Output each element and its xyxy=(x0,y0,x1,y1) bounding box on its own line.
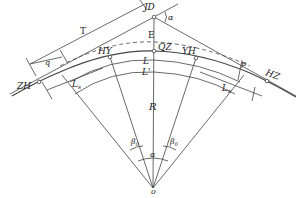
label-t: T xyxy=(80,26,86,36)
radial-line-yh xyxy=(153,58,196,188)
label-e: E xyxy=(148,30,155,40)
label-beta-right: β0 xyxy=(169,137,179,147)
label-alpha-top: α xyxy=(168,13,174,22)
label-ls-right: Ls xyxy=(221,83,231,94)
label-alpha-bottom: α xyxy=(150,150,156,159)
alpha-top-arc xyxy=(165,12,167,22)
point-hz xyxy=(265,79,269,83)
label-r: R xyxy=(148,101,157,112)
label-zh: ZH xyxy=(16,81,31,91)
point-qz xyxy=(152,49,156,53)
label-yh: YH xyxy=(182,46,196,56)
label-qz: QZ xyxy=(158,42,172,52)
label-hy: HY xyxy=(97,46,113,56)
label-ls-left: Ls xyxy=(71,79,81,90)
label-p: p xyxy=(241,59,246,68)
curve-diagram: ZH HY QZ YH HZ JD o α T q E L L' Ls Ls p… xyxy=(0,0,302,198)
label-l: L xyxy=(142,56,149,66)
point-yh xyxy=(194,56,198,60)
label-o: o xyxy=(151,187,156,196)
label-beta-left: β0 xyxy=(130,137,140,147)
t-dimension xyxy=(30,4,145,64)
label-l-prime: L' xyxy=(141,67,150,77)
arc-L-prime xyxy=(75,72,235,94)
label-jd: JD xyxy=(142,2,155,12)
beta-left-arc xyxy=(130,146,143,150)
label-q: q xyxy=(45,58,50,67)
radial-line-zh xyxy=(62,75,153,188)
beta-right-arc xyxy=(163,146,176,150)
point-jd xyxy=(152,15,156,19)
point-zh xyxy=(37,80,41,84)
